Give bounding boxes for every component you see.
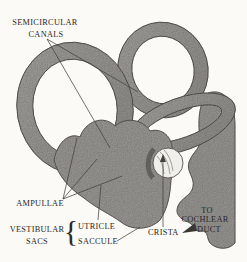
inner-ear-diagram: SEMICIRCULAR CANALS AMPULLAE VESTIBULAR … [0, 0, 247, 262]
crista-ampullaris [153, 148, 183, 178]
label-to-cochlear-duct-line1: TO [201, 206, 213, 215]
vestibular-sacs-brace: { [64, 214, 78, 247]
label-ampullae: AMPULLAE [16, 199, 64, 208]
label-vestibular-sacs-line2: SACS [26, 237, 48, 246]
inner-ear-figure: SEMICIRCULAR CANALS AMPULLAE VESTIBULAR … [0, 0, 247, 262]
label-to-cochlear-duct-line2: COCHLEAR [181, 215, 228, 224]
crista-dome [153, 148, 183, 178]
label-crista: CRISTA [148, 228, 179, 237]
label-saccule: SACCULE [78, 237, 118, 246]
label-utricle: UTRICLE [78, 222, 115, 231]
label-to-cochlear-duct-line3: DUCT [197, 225, 221, 234]
label-semicircular-canals-line1: SEMICIRCULAR [12, 18, 78, 27]
label-vestibular-sacs-line1: VESTIBULAR [10, 225, 65, 234]
label-semicircular-canals-line2: CANALS [29, 30, 64, 39]
